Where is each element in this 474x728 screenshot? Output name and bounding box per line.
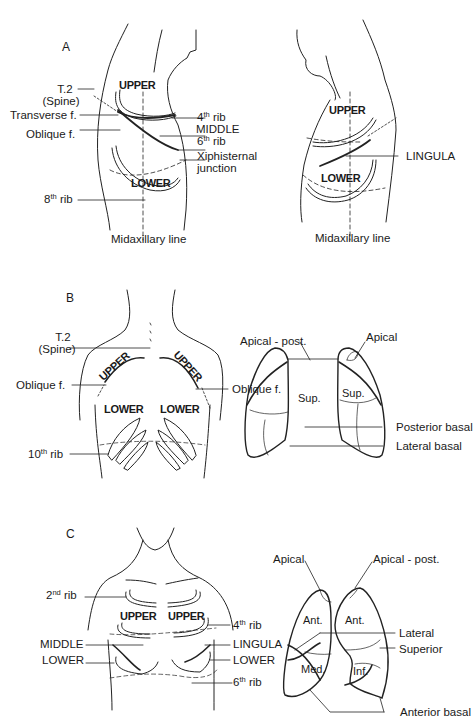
- panel-a-left-torso: [94, 24, 196, 240]
- lobe-lower-a-right: LOWER: [321, 172, 360, 184]
- label-apical-b: Apical: [366, 331, 397, 343]
- label-posterior-basal: Posterior basal: [396, 421, 473, 433]
- label-lingula-a: LINGULA: [406, 150, 455, 162]
- panel-letter-a: A: [62, 40, 70, 54]
- label-apical-post-c: Apical - post.: [373, 553, 439, 565]
- label-6th-rib-a: 6th rib: [197, 135, 226, 147]
- lobe-lower-b-left: LOWER: [104, 403, 143, 415]
- label-spine: (Spine): [38, 95, 84, 107]
- label-oblique-fissure-b-right: Oblique f.: [232, 383, 281, 395]
- segment-ant-c-right: Ant.: [345, 614, 365, 626]
- label-lateral: Lateral: [399, 627, 434, 639]
- label-10th-rib: 10th rib: [28, 448, 63, 460]
- label-t2: T.2: [48, 83, 82, 95]
- label-oblique-fissure-b-left: Oblique f.: [16, 379, 65, 391]
- label-lower-c-right: LOWER: [233, 654, 275, 666]
- label-apical-c: Apical: [273, 553, 304, 565]
- label-lower-c-left: LOWER: [42, 654, 84, 666]
- lobe-upper-a-left: UPPER: [119, 79, 155, 91]
- lobe-upper-c-left: UPPER: [120, 610, 156, 622]
- label-transverse-fissure: Transverse f.: [10, 109, 77, 121]
- label-spine-b: (Spine): [34, 343, 80, 355]
- label-apical-post-b: Apical - post.: [240, 335, 306, 347]
- label-4th-rib-a: 4th rib: [197, 111, 226, 123]
- label-junction: junction: [197, 162, 237, 174]
- segment-sup-b-right: Sup.: [342, 387, 365, 399]
- label-xiphisternal: Xiphisternal: [197, 150, 257, 162]
- label-6th-rib-c: 6th rib: [233, 676, 262, 688]
- label-superior: Superior: [399, 643, 442, 655]
- lobe-lower-a-left: LOWER: [131, 177, 170, 189]
- panel-b-back-torso: [79, 290, 223, 478]
- label-lingula-c: LINGULA: [233, 638, 282, 650]
- label-midaxillary-left: Midaxillary line: [111, 233, 186, 245]
- label-t2-b: T.2: [46, 331, 80, 343]
- segment-med: Med.: [301, 663, 325, 675]
- label-4th-rib-c: 4th rib: [233, 619, 262, 631]
- label-anterior-basal: Anterior basal: [400, 706, 471, 718]
- panel-letter-b: B: [66, 291, 74, 305]
- lobe-lower-b-right: LOWER: [160, 403, 199, 415]
- segment-ant-c-left: Ant.: [303, 614, 323, 626]
- lobe-upper-c-right: UPPER: [168, 610, 204, 622]
- label-middle-c: MIDDLE: [40, 638, 83, 650]
- label-lateral-basal: Lateral basal: [396, 440, 462, 452]
- label-8th-rib: 8th rib: [44, 193, 73, 205]
- panel-c-lungs: [284, 588, 388, 698]
- segment-sup-b-left: Sup.: [298, 392, 321, 404]
- label-oblique-fissure: Oblique f.: [26, 128, 75, 140]
- panel-letter-c: C: [66, 527, 75, 541]
- label-midaxillary-right: Midaxillary line: [315, 232, 390, 244]
- lobe-upper-a-right: UPPER: [329, 104, 365, 116]
- panel-a-right-torso: [297, 20, 396, 240]
- segment-inf: Inf.: [353, 665, 368, 677]
- label-2nd-rib: 2nd rib: [46, 589, 77, 601]
